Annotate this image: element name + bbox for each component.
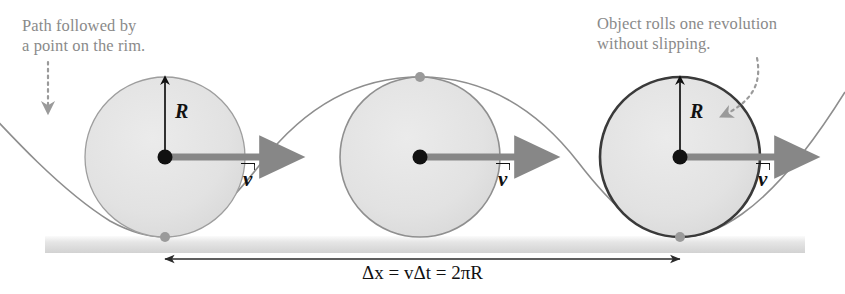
wheel-1	[85, 77, 262, 242]
wheel-1-rim-point-dot	[160, 232, 170, 242]
rolling-motion-figure: Path followed bya point on the rim. Obje…	[0, 0, 845, 294]
radius-label-wheel-1: R	[175, 100, 188, 123]
wheel-2	[340, 72, 517, 237]
path-note-annotation: Path followed bya point on the rim.	[22, 16, 145, 56]
path-note-line-1: Path followed by	[22, 16, 136, 35]
path-note-line-2: a point on the rim.	[22, 36, 145, 55]
roll-note-annotation: Object rolls one revolutionwithout slipp…	[597, 14, 777, 54]
wheel-2-center-dot	[413, 150, 428, 165]
wheel-1-center-dot	[158, 150, 173, 165]
displacement-equation-label: Δx = vΔt = 2πR	[0, 262, 845, 284]
wheel-3-rim-point-dot	[675, 232, 685, 242]
ground-surface	[45, 236, 805, 253]
velocity-label-wheel-2: v	[498, 168, 507, 191]
wheel-3	[600, 77, 777, 242]
roll-note-line-1: Object rolls one revolution	[597, 14, 777, 33]
roll-note-line-2: without slipping.	[597, 34, 711, 53]
wheel-3-center-dot	[673, 150, 688, 165]
velocity-label-wheel-1: v	[243, 168, 252, 191]
radius-label-wheel-3: R	[690, 100, 703, 123]
velocity-label-wheel-3: v	[758, 168, 767, 191]
wheel-2-rim-point-dot	[415, 72, 425, 82]
